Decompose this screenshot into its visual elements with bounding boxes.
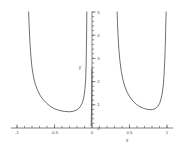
chart-background <box>0 0 177 150</box>
chart-canvas: -1-0.500.51 012345 x y <box>0 0 177 150</box>
x-tick-label: -0.5 <box>51 130 59 135</box>
x-tick-label: 0.5 <box>127 130 133 135</box>
x-tick-label: -1 <box>15 130 19 135</box>
plot-container: -1-0.500.51 012345 x y <box>0 0 177 150</box>
